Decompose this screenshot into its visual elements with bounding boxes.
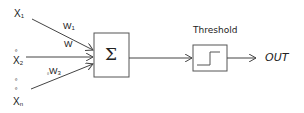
input-label-x1: X1 bbox=[14, 9, 24, 19]
summation-symbol: Σ bbox=[105, 46, 117, 63]
weight-label-w2: W bbox=[64, 40, 73, 49]
input-label-x2: X2 bbox=[13, 56, 23, 66]
output-label: OUT bbox=[265, 52, 288, 63]
weight-label-w1: W1 bbox=[63, 22, 75, 31]
weight-label-w3: ₀W3 bbox=[47, 67, 61, 76]
threshold-title: Threshold bbox=[193, 26, 237, 35]
perceptron-diagram bbox=[0, 0, 304, 113]
input-arrow-3 bbox=[31, 64, 93, 89]
input-label-xn: Xn bbox=[13, 97, 23, 107]
ellipsis-dot: º bbox=[15, 87, 17, 93]
ellipsis-dot: º bbox=[15, 78, 17, 84]
